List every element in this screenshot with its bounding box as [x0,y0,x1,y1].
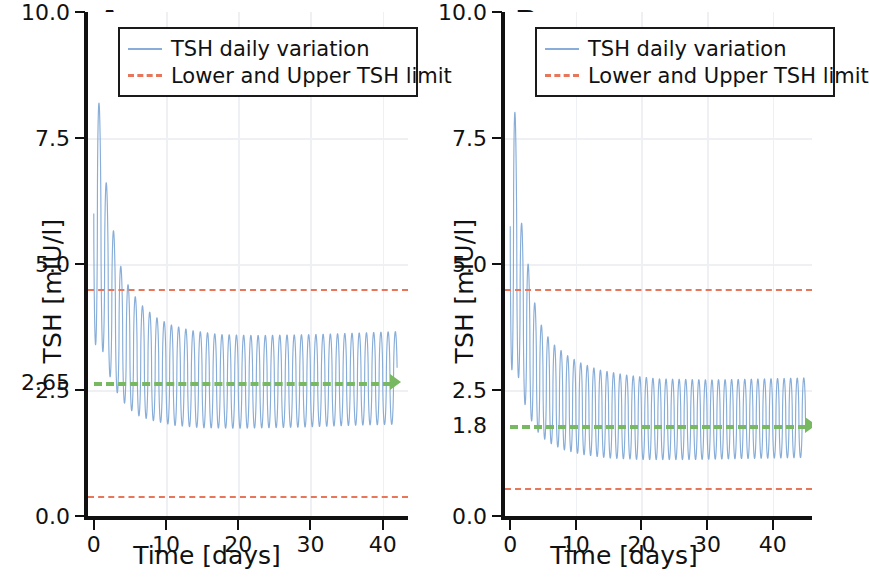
legend-swatch-limit-icon [128,74,162,77]
x-tick-mark [575,520,577,530]
x-tick-mark [509,520,511,530]
x-tick-label: 40 [738,532,808,557]
lower-limit-line [88,496,408,498]
upper-limit-line [505,289,812,291]
panel-a-bottom-spine [84,516,408,520]
upper-limit-line [88,289,408,291]
legend-entry-series: TSH daily variation [128,35,406,62]
x-tick-label: 30 [672,532,742,557]
y-tick-label: 1.8 [407,413,487,438]
x-tick-label: 40 [348,532,418,557]
x-tick-mark [93,520,95,530]
panel-b-legend: TSH daily variation Lower and Upper TSH … [535,27,835,97]
y-tick-label: 2.5 [0,378,70,403]
y-tick-label: 2.5 [407,378,487,403]
x-tick-mark [640,520,642,530]
legend-label-limit: Lower and Upper TSH limit [588,64,869,88]
y-tick-mark [492,263,502,265]
y-tick-label: 5.0 [407,252,487,277]
tsh-target-arrow-icon [390,374,401,390]
panel-b: TSH [mIU/l] Time [days] B 10.07.55.02.51… [412,0,812,581]
y-tick-label: 0.0 [407,504,487,529]
tsh-target-line [510,425,806,429]
y-tick-mark [75,515,85,517]
legend-entry-limit: Lower and Upper TSH limit [545,62,823,89]
y-tick-label: 10.0 [407,0,487,25]
panel-a-left-spine [84,12,88,520]
tsh-target-arrow-icon [805,417,812,433]
x-tick-label: 10 [541,532,611,557]
legend-label-series: TSH daily variation [171,37,369,61]
x-tick-mark [165,520,167,530]
y-tick-mark [75,263,85,265]
panel-b-yaxis-title: TSH [mIU/l] [450,191,479,391]
y-tick-label: 7.5 [407,126,487,151]
x-tick-mark [382,520,384,530]
legend-swatch-series-icon [545,48,579,50]
panel-a-legend: TSH daily variation Lower and Upper TSH … [118,27,418,97]
x-tick-label: 10 [131,532,201,557]
y-tick-label: 10.0 [0,0,70,25]
y-tick-label: 0.0 [0,504,70,529]
legend-swatch-series-icon [128,48,162,50]
x-tick-mark [237,520,239,530]
y-tick-mark [492,11,502,13]
panel-a-yaxis-title-wrap: TSH [mIU/l] [30,0,31,581]
panel-a-yaxis-title: TSH [mIU/l] [38,191,67,391]
x-tick-mark [706,520,708,530]
y-tick-mark [492,389,502,391]
y-tick-mark [75,389,85,391]
y-tick-mark [75,11,85,13]
panel-b-yaxis-title-wrap: TSH [mIU/l] [442,0,443,581]
legend-swatch-limit-icon [545,74,579,77]
tsh-target-line [94,382,391,386]
x-tick-label: 20 [606,532,676,557]
y-tick-mark [75,137,85,139]
legend-entry-limit: Lower and Upper TSH limit [128,62,406,89]
lower-limit-line [505,488,812,490]
x-tick-mark [309,520,311,530]
x-tick-label: 0 [475,532,545,557]
y-tick-label: 7.5 [0,126,70,151]
x-tick-label: 30 [275,532,345,557]
panel-b-bottom-spine [501,516,812,520]
legend-label-limit: Lower and Upper TSH limit [171,64,452,88]
x-tick-label: 20 [203,532,273,557]
panel-b-left-spine [501,12,505,520]
y-tick-mark [492,515,502,517]
legend-entry-series: TSH daily variation [545,35,823,62]
panel-a: TSH [mIU/l] Time [days] A 10.07.55.02.65… [0,0,412,581]
y-tick-mark [492,137,502,139]
x-tick-label: 0 [59,532,129,557]
legend-label-series: TSH daily variation [588,37,786,61]
x-tick-mark [772,520,774,530]
y-tick-label: 5.0 [0,252,70,277]
